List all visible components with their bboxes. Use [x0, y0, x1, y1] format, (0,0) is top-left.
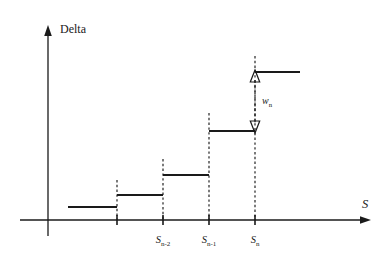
x-tick-label-s-n-1: Sn-1 [202, 234, 217, 248]
x-axis-arrowhead [360, 216, 371, 224]
jump-measure-subscript: n [269, 101, 273, 108]
figure-container: Delta S wn Sn-2 Sn-1 Sn [0, 0, 387, 260]
x-axis-group [20, 216, 371, 224]
jump-measure-label: wn [262, 95, 273, 108]
tick-subscript: n [256, 240, 260, 248]
step-treads-group [68, 72, 300, 207]
y-axis-arrowhead [44, 25, 52, 36]
y-axis-group [44, 25, 52, 236]
step-function-figure: Delta S wn Sn-2 Sn-1 Sn [0, 0, 387, 260]
x-axis-label: S [362, 197, 369, 211]
x-tick-label-s-n-2: Sn-2 [156, 234, 171, 248]
x-tick-label-s-n: Sn [251, 234, 260, 248]
tick-subscript: n-1 [207, 240, 217, 248]
tick-subscript: n-2 [161, 240, 171, 248]
y-axis-label: Delta [60, 22, 87, 36]
